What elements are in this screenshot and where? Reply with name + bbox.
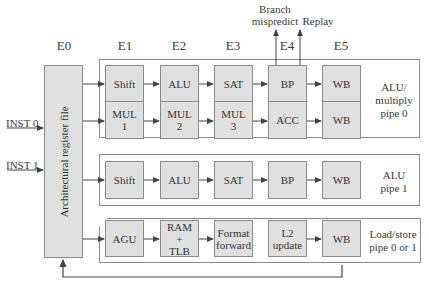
format-line: Format — [218, 227, 250, 239]
inst0-label: INST 0 — [6, 117, 42, 129]
update-line: update — [273, 239, 302, 251]
replay-label: Replay — [298, 15, 338, 27]
pipe0-label-l2: multiply — [370, 94, 418, 107]
pipe1-label-l1: ALU — [370, 169, 418, 182]
p1-wb: WB — [322, 161, 361, 199]
mul2-line2: 2 — [177, 120, 183, 132]
pipe0-label: ALU/ multiply pipe 0 — [370, 81, 418, 120]
ls-format-forward: Formatforward — [214, 220, 253, 257]
stage-e5: E5 — [322, 38, 360, 54]
p0-alu: ALU — [160, 65, 199, 102]
tlb-line: TLB — [169, 245, 190, 257]
p0-shift: Shift — [105, 65, 144, 102]
stage-e1: E1 — [106, 38, 144, 54]
mul3-line2: 3 — [231, 120, 237, 132]
stage-e3: E3 — [214, 38, 252, 54]
stage-e2: E2 — [160, 38, 198, 54]
inst1-label: INST 1 — [6, 159, 42, 171]
mul1-line1: MUL — [112, 108, 136, 120]
stage-e4: E4 — [268, 38, 306, 54]
register-file-label: Architectural register file — [58, 106, 70, 217]
ls-label-l1: Load/store — [364, 228, 422, 241]
ls-ram-tlb: RAM+TLB — [160, 220, 199, 257]
l2-line: L2 — [281, 227, 293, 239]
ls-l2-update: L2update — [268, 220, 307, 257]
p0-sat: SAT — [214, 65, 253, 102]
ls-agu: AGU — [105, 220, 144, 257]
pipe0-label-l1: ALU/ — [370, 81, 418, 94]
mul2-line1: MUL — [167, 108, 191, 120]
mul1-line2: 1 — [122, 120, 128, 132]
p1-bp: BP — [268, 161, 307, 199]
ls-label-l2: pipe 0 or 1 — [364, 241, 422, 254]
p0-bp: BP — [268, 65, 307, 102]
pipe1-label: ALU pipe 1 — [370, 169, 418, 195]
plus-line: + — [176, 233, 182, 245]
ls-wb: WB — [322, 220, 361, 257]
forward-line: forward — [216, 239, 251, 251]
p1-shift: Shift — [105, 161, 144, 199]
pipe1-label-l2: pipe 1 — [370, 182, 418, 195]
ram-line: RAM — [167, 221, 192, 233]
mul3-line1: MUL — [221, 108, 245, 120]
ls-pipe-label: Load/store pipe 0 or 1 — [364, 228, 422, 254]
p0-mul1: MUL1 — [105, 101, 144, 139]
p0-wb: WB — [322, 65, 361, 102]
p0-acc: ACC — [268, 101, 307, 139]
p0-mul3: MUL3 — [214, 101, 253, 139]
p1-alu: ALU — [160, 161, 199, 199]
architectural-register-file: Architectural register file — [44, 65, 83, 258]
p1-sat: SAT — [214, 161, 253, 199]
stage-e0: E0 — [46, 38, 82, 54]
branch-label-line1: Branch — [240, 3, 310, 15]
pipe0-label-l3: pipe 0 — [370, 107, 418, 120]
p0-wb2: WB — [322, 101, 361, 139]
p0-mul2: MUL2 — [160, 101, 199, 139]
